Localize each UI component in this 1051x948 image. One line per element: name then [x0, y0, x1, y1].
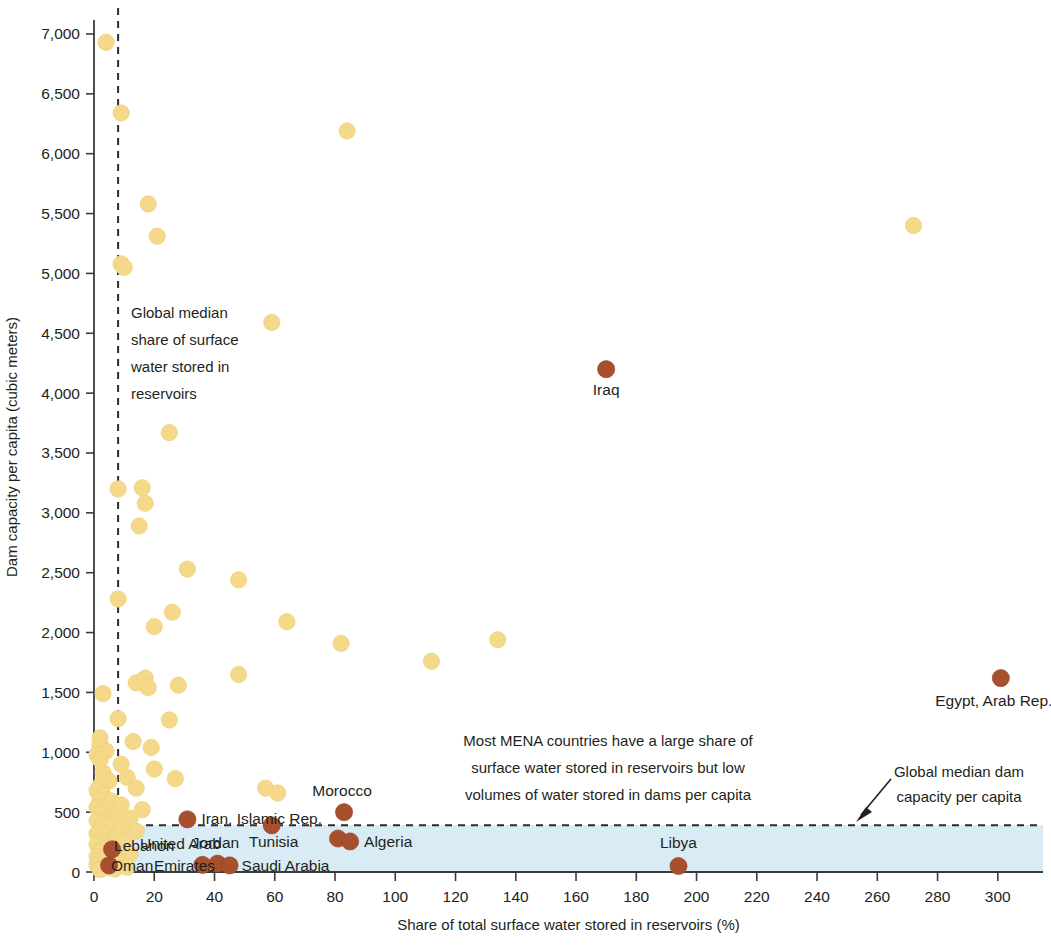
- data-point-other: [333, 635, 349, 651]
- x-tick-label: 20: [146, 888, 164, 905]
- x-tick-label: 60: [266, 888, 284, 905]
- data-point-other: [131, 518, 147, 534]
- x-tick-label: 240: [804, 888, 830, 905]
- annotation-mena-summary-line: volumes of water stored in dams per capi…: [465, 786, 752, 803]
- country-label-saudi-arabia: Saudi Arabia: [242, 857, 330, 874]
- other-countries-points: [89, 34, 922, 878]
- data-point-other: [339, 123, 355, 139]
- data-point-other: [230, 572, 246, 588]
- country-label-iran: Iran, Islamic Rep.: [201, 810, 322, 827]
- country-label-algeria: Algeria: [364, 833, 413, 850]
- y-axis-title: Dam capacity per capita (cubic meters): [3, 317, 20, 577]
- data-point-mena: [598, 361, 615, 378]
- annotation-median-share-line: Global median: [131, 304, 228, 321]
- x-tick-label: 140: [503, 888, 529, 905]
- y-tick-label: 5,500: [41, 205, 80, 222]
- annotations-layer: Global medianshare of surfacewater store…: [130, 304, 1024, 822]
- x-tick-label: 280: [925, 888, 951, 905]
- chart-canvas: 05001,0001,5002,0002,5003,0003,5004,0004…: [0, 0, 1051, 948]
- x-axis-title: Share of total surface water stored in r…: [397, 916, 740, 933]
- data-point-other: [125, 733, 141, 749]
- country-label-uae-line2: Emirates: [154, 857, 215, 874]
- data-point-other: [98, 34, 114, 50]
- y-tick-label: 2,000: [41, 624, 80, 641]
- data-point-mena: [992, 669, 1009, 686]
- data-point-mena: [341, 833, 358, 850]
- y-tick-label: 6,500: [41, 85, 80, 102]
- data-point-other: [279, 614, 295, 630]
- x-tick-label: 260: [864, 888, 890, 905]
- data-point-other: [95, 685, 111, 701]
- y-tick-label: 5,000: [41, 265, 80, 282]
- data-point-other: [134, 480, 150, 496]
- data-point-other: [149, 228, 165, 244]
- x-tick-label: 160: [563, 888, 589, 905]
- data-point-other: [140, 679, 156, 695]
- data-point-mena: [335, 804, 352, 821]
- y-tick-label: 1,000: [41, 744, 80, 761]
- data-point-other: [164, 604, 180, 620]
- y-tick-label: 3,500: [41, 444, 80, 461]
- data-point-other: [110, 481, 126, 497]
- data-point-other: [167, 770, 183, 786]
- y-tick-label: 1,500: [41, 684, 80, 701]
- data-point-other: [230, 666, 246, 682]
- annotation-median-capacity-line: Global median dam: [894, 763, 1024, 780]
- data-point-other: [137, 495, 153, 511]
- data-point-other: [170, 677, 186, 693]
- data-point-other: [116, 259, 132, 275]
- y-tick-label: 0: [71, 864, 80, 881]
- data-point-other: [161, 712, 177, 728]
- x-tick-label: 120: [443, 888, 469, 905]
- data-point-other: [270, 785, 286, 801]
- y-tick-label: 2,500: [41, 564, 80, 581]
- y-tick-label: 6,000: [41, 145, 80, 162]
- data-point-mena: [221, 857, 238, 874]
- data-point-other: [110, 711, 126, 727]
- annotation-arrow-head: [856, 807, 872, 822]
- data-point-other: [423, 653, 439, 669]
- country-label-egypt: Egypt, Arab Rep.: [935, 692, 1051, 709]
- data-point-other: [264, 314, 280, 330]
- data-point-other: [113, 105, 129, 121]
- x-tick-label: 80: [326, 888, 344, 905]
- country-label-iraq: Iraq: [593, 381, 620, 398]
- annotation-median-share-line: reservoirs: [131, 385, 197, 402]
- data-point-other: [146, 618, 162, 634]
- data-point-mena: [179, 811, 196, 828]
- data-point-other: [143, 739, 159, 755]
- x-tick-label: 40: [206, 888, 224, 905]
- x-tick-label: 180: [623, 888, 649, 905]
- x-tick-label: 0: [90, 888, 99, 905]
- x-tick-label: 100: [382, 888, 408, 905]
- data-point-other: [179, 561, 195, 577]
- y-tick-label: 4,500: [41, 325, 80, 342]
- y-tick-label: 4,000: [41, 385, 80, 402]
- country-label-libya: Libya: [660, 834, 697, 851]
- y-tick-label: 7,000: [41, 25, 80, 42]
- country-label-tunisia: Tunisia: [249, 833, 299, 850]
- y-tick-label: 500: [54, 804, 80, 821]
- x-tick-label: 220: [744, 888, 770, 905]
- scatter-chart: 05001,0001,5002,0002,5003,0003,5004,0004…: [0, 0, 1051, 948]
- data-point-other: [905, 217, 921, 233]
- country-label-lebanon: Lebanon: [114, 837, 174, 854]
- data-point-other: [146, 761, 162, 777]
- annotation-median-share-line: water stored in: [130, 358, 229, 375]
- annotation-median-share-line: share of surface: [131, 331, 239, 348]
- data-point-other: [128, 780, 144, 796]
- data-point-other: [161, 424, 177, 440]
- x-tick-label: 300: [985, 888, 1011, 905]
- data-point-mena: [670, 857, 687, 874]
- data-point-other: [110, 591, 126, 607]
- annotation-median-capacity-line: capacity per capita: [896, 788, 1022, 805]
- x-tick-label: 200: [684, 888, 710, 905]
- y-tick-label: 3,000: [41, 504, 80, 521]
- annotation-mena-summary-line: surface water stored in reservoirs but l…: [471, 759, 745, 776]
- country-label-morocco: Morocco: [312, 782, 371, 799]
- data-point-other: [490, 632, 506, 648]
- annotation-mena-summary-line: Most MENA countries have a large share o…: [463, 732, 753, 749]
- country-label-oman: Oman: [111, 857, 153, 874]
- data-point-other: [140, 196, 156, 212]
